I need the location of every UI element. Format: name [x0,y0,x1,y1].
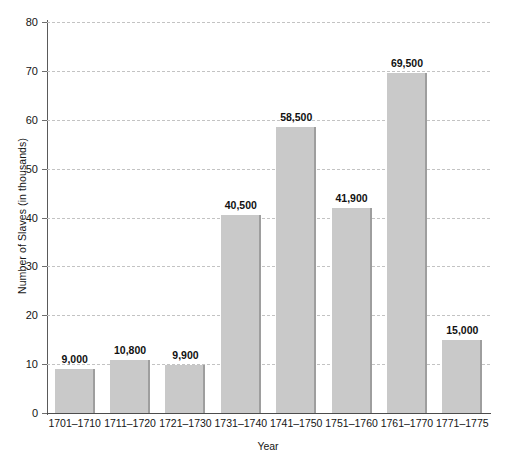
bar-value-label: 58,500 [280,111,312,123]
y-tick-label: 40 [0,212,38,224]
x-tick-label: 1721–1730 [159,417,212,429]
x-tick-label: 1731–1740 [215,417,268,429]
y-tick-label: 10 [0,358,38,370]
x-tick-label: 1741–1750 [270,417,323,429]
bar-value-label: 9,000 [62,353,88,365]
bar-value-label: 69,500 [391,57,423,69]
bar [332,208,372,413]
bar [165,365,205,413]
y-tick-label: 30 [0,260,38,272]
y-tick-mark [42,413,47,414]
y-tick-label: 80 [0,16,38,28]
gridline [47,71,490,72]
x-tick-label: 1761–1770 [381,417,434,429]
bar [221,215,261,413]
gridline [47,22,490,23]
x-axis-title: Year [46,440,490,452]
bar-value-label: 41,900 [336,192,368,204]
bar-value-label: 15,000 [446,324,478,336]
bar [276,127,316,413]
x-axis-line [47,413,491,414]
bar [387,73,427,413]
y-tick-label: 50 [0,163,38,175]
x-tick-label: 1711–1720 [104,417,156,429]
y-tick-label: 0 [0,407,38,419]
bar [55,369,95,413]
x-tick-label: 1771–1775 [436,417,489,429]
x-tick-label: 1751–1760 [325,417,378,429]
y-tick-label: 20 [0,309,38,321]
x-tick-label: 1701–1710 [48,417,101,429]
bar-value-label: 10,800 [114,344,146,356]
bar [442,340,482,413]
bar-chart: Number of Slaves (in thousands) 01020304… [0,0,507,462]
y-tick-label: 60 [0,114,38,126]
bar [110,360,150,413]
bar-value-label: 40,500 [225,199,257,211]
y-tick-label: 70 [0,65,38,77]
bar-value-label: 9,900 [172,349,198,361]
